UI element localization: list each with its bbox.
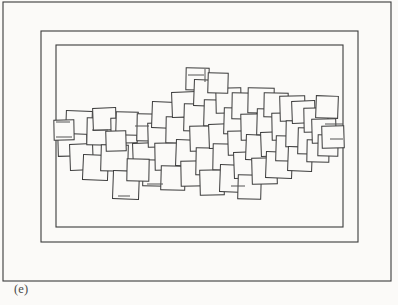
tiling-square <box>127 159 149 181</box>
figure-caption: (e) <box>14 283 28 296</box>
figure-svg <box>0 0 398 288</box>
figure-page: (e) <box>0 0 398 305</box>
tiling-square <box>316 96 339 119</box>
tiling-square <box>322 126 345 149</box>
square-tiling-group <box>54 68 344 200</box>
figure-canvas <box>0 0 398 288</box>
tiling-square <box>208 73 229 94</box>
tiling-square <box>106 131 127 152</box>
